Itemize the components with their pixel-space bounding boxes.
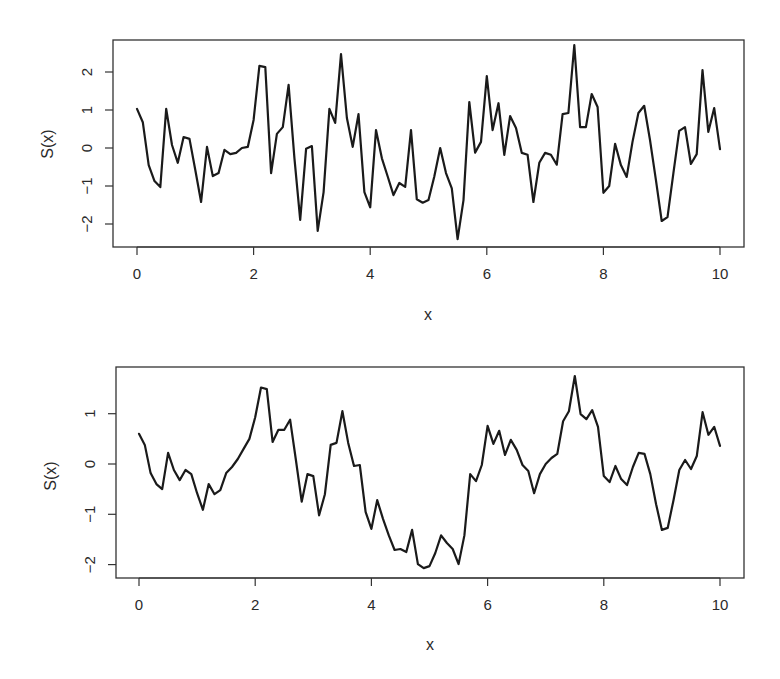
y-tick-label: −2 [81,556,98,573]
y-tick-label: −2 [78,215,95,232]
x-tick-label: 6 [483,265,491,282]
top-x-axis-label: x [424,306,432,323]
x-tick-label: 0 [135,596,143,613]
y-tick-label: 1 [78,106,95,114]
y-tick-label: 2 [78,68,95,76]
y-tick-label: −1 [81,506,98,523]
top-y-axis-label: S(x) [39,129,56,158]
x-tick-label: 2 [251,596,259,613]
x-tick-label: 0 [133,265,141,282]
x-tick-label: 4 [367,596,375,613]
x-tick-label: 8 [599,265,607,282]
y-tick-label: 0 [81,460,98,468]
x-tick-label: 10 [712,265,729,282]
figure: 0246810 −2−1012 x S(x) 0246810 −2−101 x … [0,0,780,679]
x-tick-label: 8 [600,596,608,613]
bottom-y-axis-label: S(x) [42,461,59,490]
y-tick-label: −1 [78,177,95,194]
x-tick-label: 4 [366,265,374,282]
y-tick-label: 1 [81,410,98,418]
x-tick-label: 2 [249,265,257,282]
figure-background [0,0,780,679]
bottom-x-axis-label: x [426,636,434,653]
x-tick-label: 6 [483,596,491,613]
x-tick-label: 10 [712,596,729,613]
y-tick-label: 0 [78,144,95,152]
